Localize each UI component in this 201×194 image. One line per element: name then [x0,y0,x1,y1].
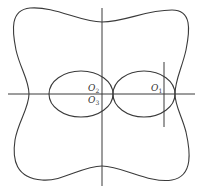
diagram-canvas [0,0,201,194]
label-o1-sub: 1 [158,87,162,94]
label-o2-sub: 2 [95,87,99,94]
label-o2: O2 [88,84,99,94]
label-o3-sub: 3 [95,99,99,106]
label-o1: O1 [151,84,162,94]
label-o3: O3 [88,96,99,106]
